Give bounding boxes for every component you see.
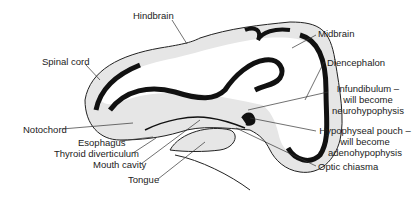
embryo-diagram: Hindbrain Midbrain Spinal cord Diencepha… — [0, 0, 415, 197]
label-notochord: Notochord — [23, 124, 67, 135]
infundibulum-line3: neurohypophysis — [326, 105, 410, 116]
infundibulum-line2: will become — [326, 94, 410, 105]
label-midbrain: Midbrain — [318, 28, 354, 39]
infundibulum-line1: Infundibulum – — [326, 83, 410, 94]
label-thyroid-diverticulum: Thyroid diverticulum — [54, 148, 139, 159]
label-spinal-cord: Spinal cord — [42, 56, 90, 67]
label-hypophyseal-pouch: Hypophyseal pouch – will become adenohyp… — [316, 125, 414, 158]
label-tongue: Tongue — [128, 174, 159, 185]
label-esophagus: Esophagus — [78, 137, 126, 148]
label-infundibulum: Infundibulum – will become neurohypophys… — [326, 83, 410, 116]
label-optic-chiasma: Optic chiasma — [318, 161, 378, 172]
lower-jaw — [175, 155, 250, 190]
label-diencephalon: Diencephalon — [327, 57, 385, 68]
label-mouth-cavity: Mouth cavity — [93, 159, 146, 170]
label-hindbrain: Hindbrain — [133, 10, 174, 21]
hypophyseal-line3: adenohypophysis — [316, 147, 414, 158]
hypophyseal-line2: will become — [316, 136, 414, 147]
hypophyseal-line1: Hypophyseal pouch – — [316, 125, 414, 136]
